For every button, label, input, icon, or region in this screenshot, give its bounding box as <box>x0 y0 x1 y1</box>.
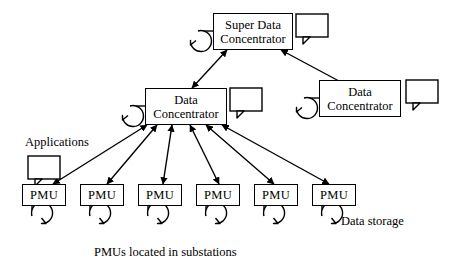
pmu-label: PMU <box>30 188 58 202</box>
applications-label: Applications <box>25 135 89 150</box>
link-concentrator-to-pmu-5 <box>206 125 274 184</box>
node-super-data-concentrator[interactable]: Super Data Concentrator <box>213 13 293 50</box>
link-concentrator-to-pmu-3 <box>163 125 172 184</box>
node-label-line1: Super Data <box>225 18 281 32</box>
link-concentrator-to-pmu-4 <box>190 125 219 184</box>
pmu-hierarchy-diagram: Super Data Concentrator Data Concentrato… <box>0 0 451 269</box>
node-pmu-5[interactable]: PMU <box>254 184 298 206</box>
node-left-data-concentrator[interactable]: Data Concentrator <box>145 88 227 125</box>
link-super-to-left-concentrator <box>192 50 227 88</box>
pmu-label: PMU <box>204 188 232 202</box>
node-pmu-3[interactable]: PMU <box>138 184 182 206</box>
data-storage-label: Data storage <box>341 214 404 229</box>
pmu-label: PMU <box>262 188 290 202</box>
applications-bubble-icon-right <box>406 80 438 110</box>
node-pmu-1[interactable]: PMU <box>22 184 66 206</box>
diagram-caption: PMUs located in substations <box>94 245 237 260</box>
node-pmu-4[interactable]: PMU <box>196 184 240 206</box>
applications-bubble-icon-left <box>230 88 262 118</box>
applications-bubble-icon-label <box>28 156 60 186</box>
pmu-label: PMU <box>88 188 116 202</box>
data-storage-icon-right <box>296 98 319 119</box>
node-label-line1: Data <box>348 85 372 99</box>
pmu-label: PMU <box>146 188 174 202</box>
node-pmu-6[interactable]: PMU <box>312 184 356 206</box>
data-storage-icon-left <box>122 106 145 127</box>
node-label-line2: Concentrator <box>153 107 218 121</box>
node-label-line1: Data <box>174 93 198 107</box>
pmu-label: PMU <box>320 188 348 202</box>
node-right-data-concentrator[interactable]: Data Concentrator <box>319 80 401 117</box>
applications-bubble-icon-super <box>296 14 328 44</box>
node-pmu-2[interactable]: PMU <box>80 184 124 206</box>
data-storage-icon-super <box>190 31 213 52</box>
node-label-line2: Concentrator <box>220 32 285 46</box>
link-concentrator-to-pmu-6 <box>222 125 329 184</box>
node-label-line2: Concentrator <box>327 99 392 113</box>
